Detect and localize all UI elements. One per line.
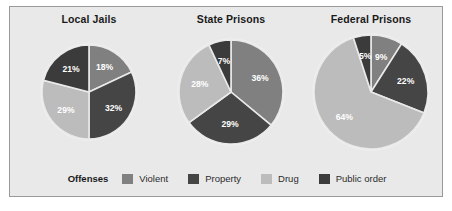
slice-label-federal-prisons-property: 22% <box>397 76 415 86</box>
pie-chart-local-jails: Local Jails 18%32%29%21% <box>16 13 162 163</box>
legend-items: ViolentPropertyDrugPublic order <box>122 173 386 184</box>
legend-label-violent: Violent <box>139 173 168 184</box>
legend-item-drug[interactable]: Drug <box>261 173 299 184</box>
legend-swatch-violent <box>122 174 133 184</box>
slice-label-federal-prisons-drug: 64% <box>336 112 354 122</box>
pie-graphic-local-jails: 18%32%29%21% <box>16 30 162 160</box>
slice-label-local-jails-property: 32% <box>105 103 123 113</box>
figure-canvas: Local Jails 18%32%29%21% State Prisons 3… <box>0 0 452 211</box>
legend-label-property: Property <box>205 173 241 184</box>
slice-label-state-prisons-drug: 28% <box>191 79 209 89</box>
slice-label-state-prisons-public-order: 7% <box>218 56 231 66</box>
chart-title-state-prisons: State Prisons <box>158 13 304 25</box>
legend-item-public-order[interactable]: Public order <box>319 173 387 184</box>
slice-label-federal-prisons-violent: 9% <box>375 52 388 62</box>
pie-chart-federal-prisons: Federal Prisons 9%22%64%5% <box>298 13 444 163</box>
legend-swatch-drug <box>261 174 272 184</box>
slice-label-local-jails-violent: 18% <box>96 62 114 72</box>
legend-label-drug: Drug <box>278 173 299 184</box>
pie-graphic-state-prisons: 36%29%28%7% <box>158 30 304 160</box>
slice-label-local-jails-drug: 29% <box>57 105 75 115</box>
legend-item-property[interactable]: Property <box>188 173 241 184</box>
slice-label-local-jails-public-order: 21% <box>63 64 81 74</box>
chart-title-federal-prisons: Federal Prisons <box>298 13 444 25</box>
chart-title-local-jails: Local Jails <box>16 13 162 25</box>
legend: Offenses ViolentPropertyDrugPublic order <box>10 173 444 184</box>
slice-label-state-prisons-violent: 36% <box>252 73 270 83</box>
chart-panel: Local Jails 18%32%29%21% State Prisons 3… <box>9 6 443 197</box>
legend-title: Offenses <box>68 173 109 184</box>
legend-item-violent[interactable]: Violent <box>122 173 168 184</box>
legend-label-public-order: Public order <box>336 173 387 184</box>
slice-label-state-prisons-property: 29% <box>221 119 239 129</box>
pie-graphic-federal-prisons: 9%22%64%5% <box>298 30 444 160</box>
pie-chart-state-prisons: State Prisons 36%29%28%7% <box>158 13 304 163</box>
legend-swatch-public-order <box>319 174 330 184</box>
legend-swatch-property <box>188 174 199 184</box>
slice-label-federal-prisons-public-order: 5% <box>359 51 372 61</box>
